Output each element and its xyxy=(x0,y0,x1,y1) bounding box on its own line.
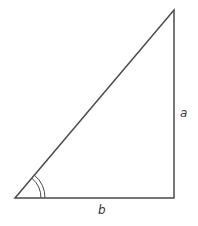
diagram-canvas: a b xyxy=(0,0,198,226)
right-triangle xyxy=(15,10,174,198)
triangle-diagram: a b xyxy=(0,0,198,226)
side-label-a: a xyxy=(180,106,187,120)
angle-arc-outer xyxy=(34,175,45,198)
side-label-b: b xyxy=(98,203,106,217)
